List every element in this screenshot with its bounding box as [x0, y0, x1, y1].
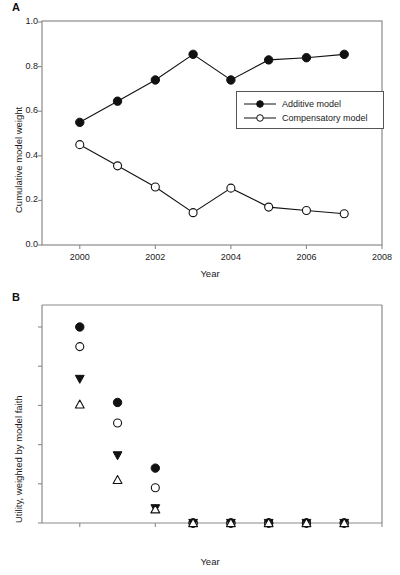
- panel-b-plot: [0, 287, 400, 575]
- legend-item-compensatory-model: Compensatory model: [243, 111, 377, 125]
- panel-a-plot: [0, 0, 400, 288]
- panel-a-legend: Additive model Compensatory model: [236, 91, 384, 129]
- legend-item-additive-model: Additive model: [243, 97, 377, 111]
- y-tick-label: 0.6: [14, 105, 38, 115]
- x-tick-label: 2006: [286, 252, 326, 262]
- x-tick-label: 2008: [362, 252, 400, 262]
- y-tick-label: 0.8: [14, 61, 38, 71]
- y-tick-label: 1.0: [14, 16, 38, 26]
- filled-circle-line-icon: [243, 98, 277, 110]
- panel-b-y-axis-title: Utility, weighted by model faith: [13, 395, 24, 523]
- panel-b-x-axis-title: Year: [10, 556, 400, 567]
- panel-a-x-axis-title: Year: [10, 268, 400, 279]
- panel-b: B Year Utility, weighted by model faith …: [0, 287, 400, 575]
- legend-label: Additive model: [282, 99, 341, 109]
- legend-label: Compensatory model: [282, 113, 368, 123]
- x-tick-label: 2002: [135, 252, 175, 262]
- y-tick-label: 0.2: [14, 194, 38, 204]
- x-tick-label: 2000: [60, 252, 100, 262]
- figure-root: A Year Cumulative model weight 0.00.20.4…: [0, 0, 400, 575]
- panel-a: A Year Cumulative model weight 0.00.20.4…: [0, 0, 400, 288]
- y-tick-label: 0.0: [14, 239, 38, 249]
- x-tick-label: 2004: [211, 252, 251, 262]
- open-circle-line-icon: [243, 112, 277, 124]
- y-tick-label: 0.4: [14, 150, 38, 160]
